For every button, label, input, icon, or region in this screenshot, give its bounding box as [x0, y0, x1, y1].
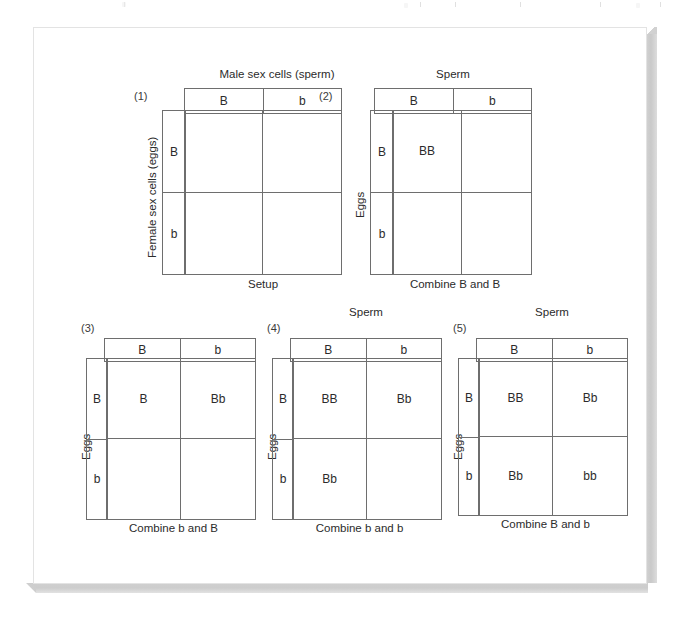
panel-3-egg-header: B b: [86, 358, 108, 520]
panel-1-cell-1-1: [263, 193, 341, 275]
panel-5-top-title: Sperm: [476, 306, 628, 318]
page-sheet: (1) Male sex cells (sperm) Female sex ce…: [33, 27, 647, 584]
panel-3-caption: Combine b and B: [86, 522, 261, 534]
scan-noise: [0, 0, 686, 10]
panel-1-grid: [184, 110, 342, 275]
panel-5-index: (5): [453, 322, 466, 334]
panel-5-grid: BB Bb Bb bb: [478, 358, 628, 516]
panel-5-cell-1-1: bb: [553, 437, 627, 515]
panel-5-caption: Combine B and b: [458, 518, 633, 530]
panel-4-row-b: b: [273, 439, 293, 520]
panel-4-grid: BB Bb Bb: [292, 358, 442, 520]
panel-1-top-title: Male sex cells (sperm): [172, 68, 382, 80]
panel-5-cell-0-1: Bb: [553, 359, 627, 437]
page-shadow-bottom: [36, 583, 648, 593]
panel-4-cell-1-1: [367, 439, 441, 519]
panel-2-index: (2): [319, 90, 332, 102]
panel-4-caption: Combine b and b: [272, 522, 447, 534]
panel-4-row-B: B: [273, 359, 293, 439]
panel-1-caption: Setup: [184, 278, 342, 290]
panel-1-cell-0-1: [263, 111, 341, 193]
panel-3-row-B: B: [87, 359, 107, 439]
panel-3-cell-1-0: [107, 439, 181, 519]
panel-4-cell-0-1: Bb: [367, 359, 441, 439]
page-shadow-right: [646, 34, 657, 583]
panel-3-row-b: b: [87, 439, 107, 520]
panel-1-row-B: B: [163, 111, 185, 192]
figure-canvas: (1) Male sex cells (sperm) Female sex ce…: [0, 0, 686, 623]
panel-4-top-title: Sperm: [290, 306, 442, 318]
panel-4-cell-0-0: BB: [293, 359, 367, 439]
panel-2-grid: BB: [392, 110, 532, 275]
panel-1-side-title: Female sex cells (eggs): [146, 137, 158, 258]
panel-2-egg-header: B b: [370, 110, 394, 275]
panel-4-egg-header: B b: [272, 358, 294, 520]
panel-3-index: (3): [81, 322, 94, 334]
panel-5-cell-0-0: BB: [479, 359, 553, 437]
panel-5-row-B: B: [459, 359, 479, 437]
panel-1-cell-0-0: [185, 111, 263, 193]
panel-2-cell-1-1: [462, 193, 531, 275]
panel-1-row-b: b: [163, 192, 185, 274]
panel-2-top-title: Sperm: [374, 68, 532, 80]
panel-2-cell-0-1: [462, 111, 531, 193]
panel-5-egg-header: B b: [458, 358, 480, 516]
panel-1-cell-1-0: [185, 193, 263, 275]
panel-4-index: (4): [267, 322, 280, 334]
panel-3-cell-1-1: [181, 439, 255, 519]
panel-2-cell-0-0: BB: [393, 111, 462, 193]
panel-3-cell-0-0: B: [107, 359, 181, 439]
panel-4-cell-1-0: Bb: [293, 439, 367, 519]
panel-3-grid: B Bb: [106, 358, 256, 520]
panel-1-index: (1): [134, 90, 147, 102]
panel-2-row-B: B: [371, 111, 393, 192]
panel-2-cell-1-0: [393, 193, 462, 275]
panel-2-caption: Combine B and B: [370, 278, 540, 290]
panel-1-egg-header: B b: [162, 110, 186, 275]
panel-2-side-title: Eggs: [354, 192, 366, 218]
panel-5-cell-1-0: Bb: [479, 437, 553, 515]
panel-5-row-b: b: [459, 437, 479, 516]
panel-2-row-b: b: [371, 192, 393, 274]
panel-3-cell-0-1: Bb: [181, 359, 255, 439]
